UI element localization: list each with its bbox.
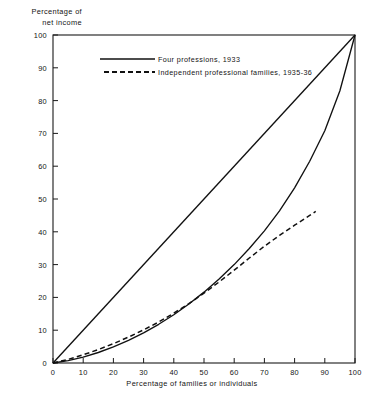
y-axis-tick-label: 20 [19, 293, 47, 302]
x-axis-tick-label: 70 [250, 368, 278, 377]
x-axis-tick-label: 90 [311, 368, 339, 377]
legend-label-1: Independent professional families, 1935-… [158, 68, 312, 77]
x-axis-tick-label: 30 [130, 368, 158, 377]
y-axis-tick-label: 90 [19, 64, 47, 73]
y-axis-tick-label: 0 [19, 359, 47, 368]
x-axis-tick-label: 20 [99, 368, 127, 377]
x-axis-tick-label: 100 [341, 368, 369, 377]
x-axis-tick-label: 80 [281, 368, 309, 377]
legend-line-samples [100, 59, 155, 72]
legend-label-0: Four professions, 1933 [158, 55, 240, 64]
y-axis-tick-label: 40 [19, 228, 47, 237]
x-axis-tick-marks [53, 358, 355, 363]
x-axis-tick-label: 0 [39, 368, 67, 377]
series-line-0 [53, 35, 355, 363]
y-axis-tick-label: 80 [19, 97, 47, 106]
y-axis-tick-label: 70 [19, 129, 47, 138]
y-axis-tick-label: 30 [19, 261, 47, 270]
x-axis-tick-label: 10 [69, 368, 97, 377]
data-series-group [53, 35, 355, 363]
y-axis-tick-label: 10 [19, 326, 47, 335]
x-axis-tick-label: 40 [160, 368, 188, 377]
x-axis-tick-label: 60 [220, 368, 248, 377]
y-axis-tick-label: 50 [19, 195, 47, 204]
y-axis-tick-label: 60 [19, 162, 47, 171]
y-axis-tick-label: 100 [19, 31, 47, 40]
y-axis-tick-marks [53, 35, 58, 363]
lorenz-curve-chart: Percentage ofnet income Percentage of fa… [0, 0, 384, 397]
series-line-2 [53, 211, 316, 363]
x-axis-tick-label: 50 [190, 368, 218, 377]
